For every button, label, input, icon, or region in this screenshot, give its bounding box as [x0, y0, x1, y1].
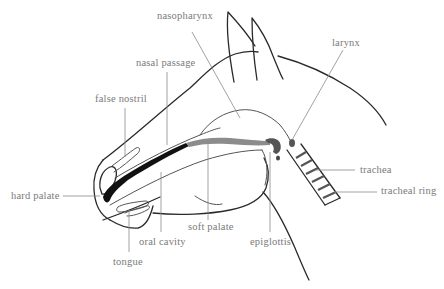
label-epiglottis: epiglottis	[250, 237, 291, 248]
label-hard-palate: hard palate	[11, 191, 60, 202]
larynx-nub	[289, 139, 295, 147]
label-nasopharynx: nasopharynx	[157, 11, 213, 22]
label-larynx: larynx	[332, 38, 360, 49]
label-tongue: tongue	[113, 257, 143, 268]
label-false-nostril: false nostril	[95, 94, 147, 105]
horse-respiratory-diagram	[0, 0, 444, 289]
label-soft-palate: soft palate	[188, 222, 234, 233]
label-oral-cavity: oral cavity	[139, 237, 186, 248]
epiglottis-tip	[276, 156, 280, 161]
label-tracheal-ring: tracheal ring	[381, 186, 436, 197]
label-trachea: trachea	[360, 165, 392, 176]
label-nasal-passage: nasal passage	[136, 58, 195, 69]
